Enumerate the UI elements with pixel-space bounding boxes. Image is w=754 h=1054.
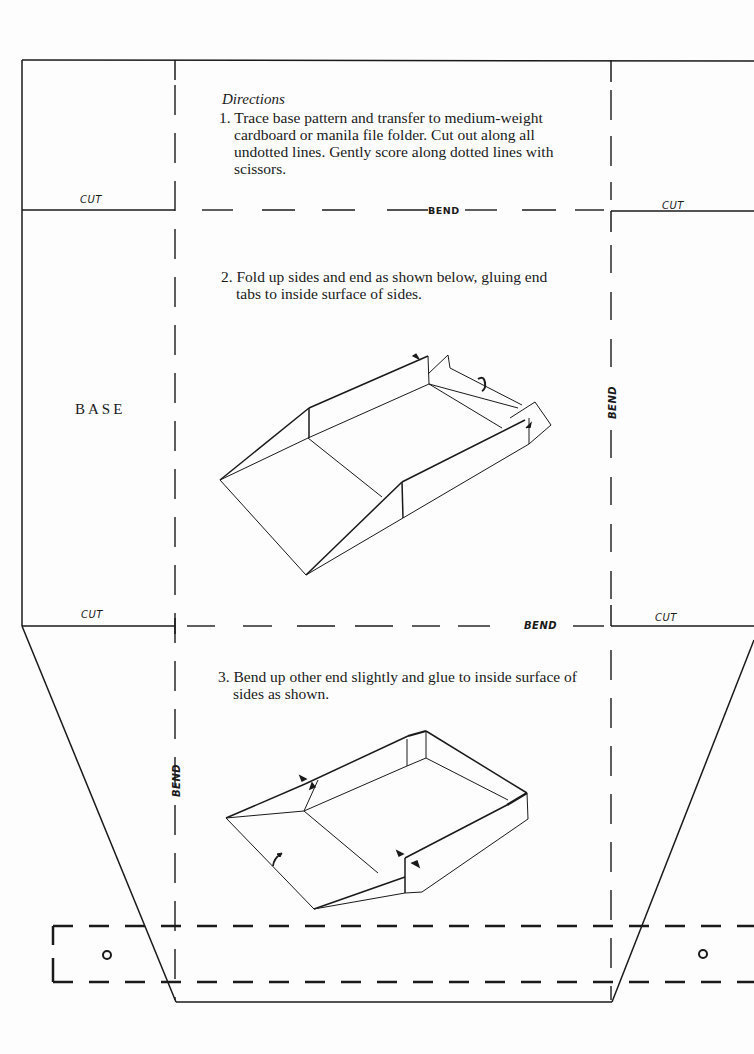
step-2-number: 2. [221,268,233,285]
step-1-text: 1. Trace base pattern and transfer to me… [219,109,579,177]
step-3-body: Bend up other end slightly and glue to i… [233,668,577,702]
strap-outline [53,926,754,982]
cut-label-top-right: CUT [662,200,684,211]
step-1-number: 1. [219,109,231,126]
step-1-body: Trace base pattern and transfer to mediu… [234,109,553,177]
cut-label-bottom-right: CUT [655,612,677,623]
bend-label-top: BEND [428,205,460,216]
bend-lines [175,85,611,1000]
pattern-page: Directions 1. Trace base pattern and tra… [0,0,754,1054]
cut-label-top-left: CUT [80,194,102,205]
base-label: BASE [75,401,125,418]
step-2-body: Fold up sides and end as shown below, gl… [236,268,547,302]
step-3-text: 3. Bend up other end slightly and glue t… [218,668,593,702]
bend-label-middle: BEND [524,620,557,631]
directions-heading: Directions [222,91,285,108]
cut-lines [22,60,754,1002]
bend-label-left-vertical: BEND [171,764,182,797]
cut-label-bottom-left: CUT [81,609,103,620]
bend-label-right-vertical: BEND [607,386,618,419]
step-2-illustration [220,354,551,575]
step-2-text: 2. Fold up sides and end as shown below,… [221,268,576,302]
step-3-number: 3. [218,668,230,685]
strap-holes [103,950,707,959]
step-3-illustration [226,731,528,909]
